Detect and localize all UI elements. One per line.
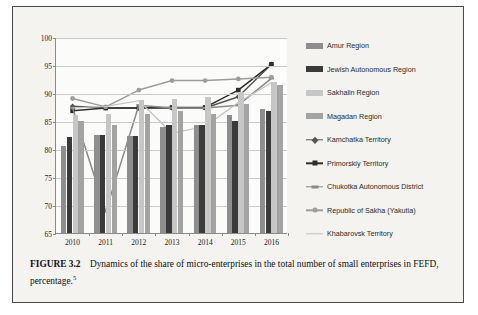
y-gridline	[56, 66, 287, 67]
x-tick-mark	[255, 233, 256, 236]
x-tick-label: 2010	[65, 238, 80, 247]
y-tick-label: 95	[45, 62, 53, 71]
legend-item[interactable]: Primorskiy Territory	[306, 152, 456, 176]
y-tick-label: 70	[45, 202, 53, 211]
figure-caption: FIGURE 3.2 Dynamics of the share of micr…	[30, 258, 440, 288]
x-tick-label: 2015	[231, 238, 246, 247]
y-tick-label: 75	[45, 174, 53, 183]
legend-item[interactable]: Jewish Autonomous Region	[306, 58, 456, 82]
y-gridline	[56, 94, 287, 95]
legend-item[interactable]: Kamchatka Territory	[306, 128, 456, 152]
bar	[67, 137, 72, 233]
y-tick-mark	[53, 150, 56, 151]
bar	[266, 111, 271, 233]
legend-line-icon	[306, 182, 323, 191]
bar	[227, 115, 232, 233]
figure-area: 6570758085909510020102011201220132014201…	[14, 8, 462, 250]
line-marker	[136, 88, 141, 93]
bar	[271, 82, 276, 233]
bar	[172, 99, 177, 233]
legend-swatch-icon	[306, 66, 323, 72]
caption-spacer	[83, 259, 90, 269]
line-marker	[70, 96, 75, 101]
figure-page: 6570758085909510020102011201220132014201…	[0, 0, 478, 315]
chart-legend: Amur RegionJewish Autonomous RegionSakha…	[306, 34, 456, 246]
bar	[232, 121, 237, 233]
y-gridline	[56, 38, 287, 39]
bar	[94, 135, 99, 233]
y-tick-label: 100	[41, 34, 52, 43]
bar	[238, 92, 243, 233]
legend-label: Khabarovsk Territory	[327, 229, 393, 238]
bar	[199, 125, 204, 233]
bar	[260, 109, 265, 233]
legend-item[interactable]: Chukotka Autonomous District	[306, 175, 456, 199]
y-tick-mark	[53, 178, 56, 179]
bar	[244, 104, 249, 233]
x-tick-label: 2013	[165, 238, 180, 247]
x-tick-mark	[122, 233, 123, 236]
legend-item[interactable]: Sakhalin Region	[306, 81, 456, 105]
y-tick-label: 80	[45, 146, 53, 155]
chart-canvas: 6570758085909510020102011201220132014201…	[22, 16, 298, 248]
bar	[205, 97, 210, 233]
bar	[100, 135, 105, 233]
x-tick-mark	[222, 233, 223, 236]
line-marker	[203, 78, 208, 83]
legend-line-icon	[306, 159, 323, 168]
legend-line-icon	[306, 206, 323, 215]
x-tick-mark	[155, 233, 156, 236]
caption-label: FIGURE 3.2	[30, 259, 81, 269]
legend-swatch-icon	[306, 90, 323, 96]
y-tick-mark	[53, 234, 56, 235]
legend-label: Sakhalin Region	[327, 88, 379, 97]
legend-item[interactable]: Magadan Region	[306, 105, 456, 129]
bar	[61, 146, 66, 233]
x-tick-label: 2011	[98, 238, 113, 247]
line-marker	[236, 76, 241, 81]
legend-swatch-icon	[306, 113, 323, 119]
legend-line-icon	[306, 135, 323, 144]
bar	[178, 111, 183, 233]
bar	[139, 100, 144, 233]
y-tick-label: 90	[45, 90, 53, 99]
legend-label: Jewish Autonomous Region	[327, 65, 416, 74]
y-tick-mark	[53, 122, 56, 123]
plot-area: 6570758085909510020102011201220132014201…	[55, 38, 287, 234]
legend-label: Kamchatka Territory	[327, 135, 391, 144]
bar	[112, 125, 117, 233]
legend-label: Chukotka Autonomous District	[327, 182, 423, 191]
bar	[211, 114, 216, 233]
legend-item[interactable]: Republic of Sakha (Yakutia)	[306, 199, 456, 223]
line-marker	[170, 78, 175, 83]
x-tick-label: 2016	[264, 238, 279, 247]
y-tick-label: 65	[45, 230, 53, 239]
x-tick-mark	[89, 233, 90, 236]
x-tick-mark	[189, 233, 190, 236]
bar	[166, 125, 171, 233]
x-tick-label: 2012	[131, 238, 146, 247]
legend-label: Primorskiy Territory	[327, 159, 388, 168]
y-tick-label: 85	[45, 118, 53, 127]
legend-line-icon	[306, 229, 323, 238]
bar	[78, 121, 83, 233]
x-tick-mark	[288, 233, 289, 236]
bar	[145, 114, 150, 233]
y-tick-mark	[53, 38, 56, 39]
caption-text: Dynamics of the share of micro-enterpris…	[30, 259, 439, 286]
bar	[73, 115, 78, 233]
bar	[106, 114, 111, 233]
legend-swatch-icon	[306, 43, 323, 49]
caption-footnote: 5	[73, 274, 76, 281]
bar	[133, 136, 138, 233]
bar	[277, 85, 282, 233]
legend-label: Magadan Region	[327, 112, 382, 121]
legend-item[interactable]: Khabarovsk Territory	[306, 222, 456, 246]
bar	[194, 125, 199, 233]
y-tick-mark	[53, 206, 56, 207]
line-marker	[269, 75, 274, 80]
legend-item[interactable]: Amur Region	[306, 34, 456, 58]
legend-label: Amur Region	[327, 41, 369, 50]
bar	[127, 136, 132, 233]
x-tick-label: 2014	[198, 238, 213, 247]
